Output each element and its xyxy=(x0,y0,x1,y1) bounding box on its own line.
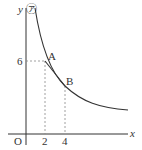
point-b-label: B xyxy=(66,75,73,87)
x-axis-label: x xyxy=(129,127,135,139)
x-tick-2: 2 xyxy=(42,135,48,147)
x-tick-4: 4 xyxy=(62,135,68,147)
segment-ab xyxy=(45,61,65,86)
curve-label: ㋐ xyxy=(26,3,37,15)
point-a-label: A xyxy=(48,50,56,62)
graph-diagram: y ㋐ x O 2 4 6 A B xyxy=(0,0,142,150)
y-tick-6: 6 xyxy=(17,55,23,67)
y-axis-label: y xyxy=(17,3,23,15)
origin-label: O xyxy=(14,135,22,147)
